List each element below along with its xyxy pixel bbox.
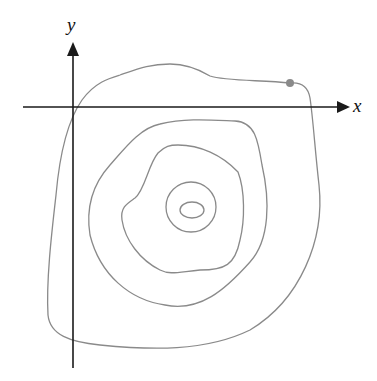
contour-level-2 xyxy=(89,120,267,306)
contour-diagram: x y xyxy=(0,0,377,381)
contour-level-3 xyxy=(122,145,244,273)
y-axis-arrow-icon xyxy=(67,42,79,56)
y-axis-label: y xyxy=(65,14,76,35)
x-axis-arrow-icon xyxy=(337,101,350,113)
marked-point xyxy=(286,79,294,87)
contour-level-5 xyxy=(180,202,204,218)
x-axis-label: x xyxy=(352,95,362,116)
contour-level-4 xyxy=(166,182,216,232)
